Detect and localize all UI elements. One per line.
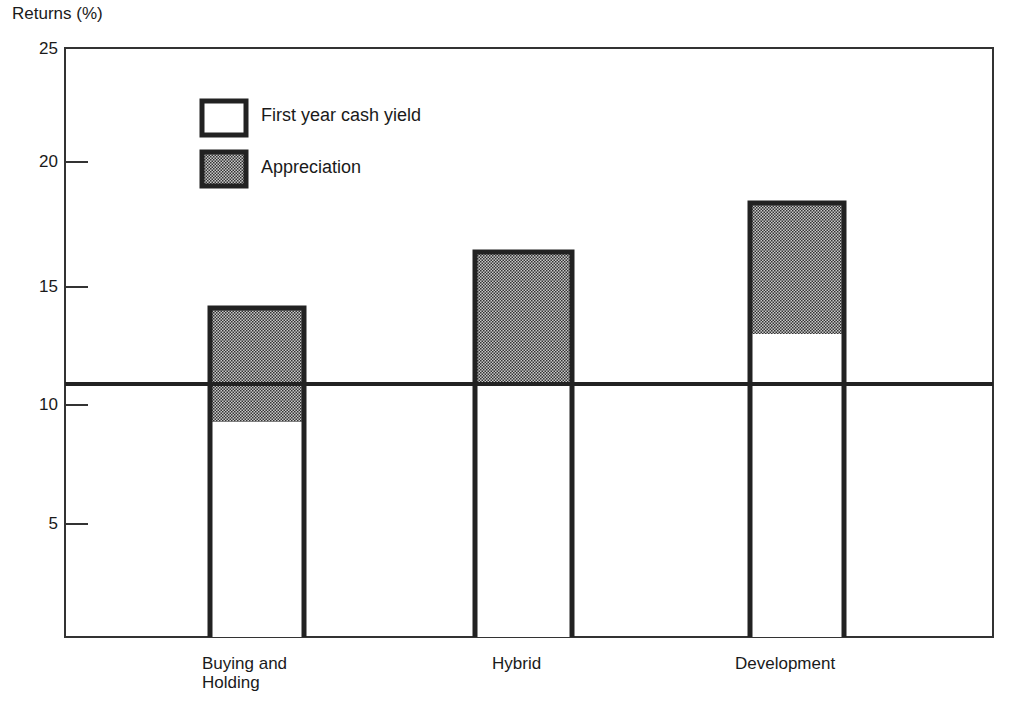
x-category-line1: Buying and xyxy=(202,654,287,673)
x-category-buying-holding: Buying and Holding xyxy=(202,654,287,692)
chart-canvas xyxy=(0,0,1023,708)
legend-label-cash: First year cash yield xyxy=(261,105,421,126)
legend-label-appreciation: Appreciation xyxy=(261,157,361,178)
legend-swatch-appreciation xyxy=(202,152,246,186)
legend-swatch-cash xyxy=(202,101,246,135)
bar-hybrid xyxy=(475,252,572,637)
x-category-hybrid: Hybrid xyxy=(492,654,541,673)
bar-development xyxy=(750,203,844,637)
x-category-line2: Holding xyxy=(202,673,287,692)
x-category-development: Development xyxy=(735,654,835,673)
bar-buying-and-holding xyxy=(210,308,304,637)
